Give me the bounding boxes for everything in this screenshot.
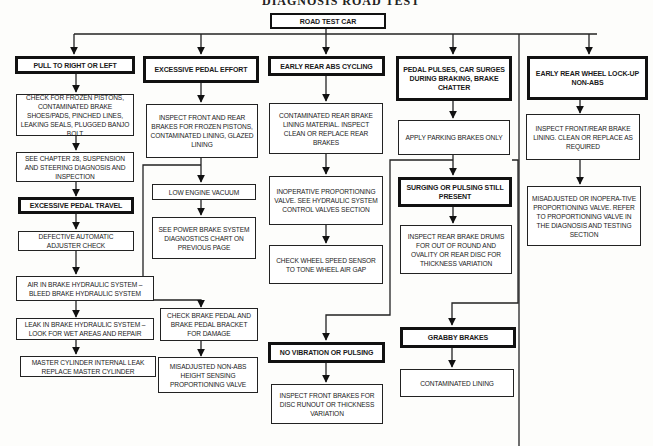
header-label: PULL TO RIGHT OR LEFT xyxy=(33,61,116,70)
header-excessive-pedal-travel: EXCESSIVE PEDAL TRAVEL xyxy=(18,197,134,214)
step-inoperative-proportioning-valve: INOPERATIVE PROPORTIONING VALVE. SEE HYD… xyxy=(269,176,383,225)
step-inspect-rear-drums: INSPECT REAR BRAKE DRUMS FOR OUT OF ROUN… xyxy=(400,225,512,274)
header-label: PEDAL PULSES, CAR SURGES DURING BRAKING,… xyxy=(402,65,506,92)
step-see-chapter-28: SEE CHAPTER 28, SUSPENSION AND STEERING … xyxy=(16,152,134,182)
header-pull-to-right-or-left: PULL TO RIGHT OR LEFT xyxy=(15,56,135,74)
step-misadjusted-proportioning-valve: MISADJUSTED OR INOPERA-TIVE PROPORTIONIN… xyxy=(527,186,641,246)
step-inspect-front-brakes-runout: INSPECT FRONT BRAKES FOR DISC RUNOUT OR … xyxy=(271,384,383,424)
step-air-in-hydraulic: AIR IN BRAKE HYDRAULIC SYSTEM – BLEED BR… xyxy=(16,276,154,301)
step-label: CHECK BRAKE PEDAL AND BRAKE PEDAL BRACKE… xyxy=(164,311,254,338)
header-label: NO VIBRATION OR PULSING xyxy=(280,348,374,357)
header-pedal-pulses: PEDAL PULSES, CAR SURGES DURING BRAKING,… xyxy=(396,56,512,101)
step-inspect-front-rear-lining: INSPECT FRONT/REAR BRAKE LINING. CLEAN O… xyxy=(526,114,640,160)
header-surging-still-present: SURGING OR PULSING STILL PRESENT xyxy=(398,177,512,207)
step-label: APPLY PARKING BRAKES ONLY xyxy=(405,133,502,142)
step-label: CHECK WHEEL SPEED SENSOR TO TONE WHEEL A… xyxy=(273,256,379,274)
step-misadjusted-non-abs: MISADJUSTED NON-ABS HEIGHT SENSING PROPO… xyxy=(158,357,258,393)
step-label: CONTAMINATED REAR BRAKE LINING MATERIAL.… xyxy=(273,111,379,147)
header-label: EARLY REAR ABS CYCLING xyxy=(280,62,372,71)
root-road-test-car: ROAD TEST CAR xyxy=(270,13,386,29)
header-label: SURGING OR PULSING STILL PRESENT xyxy=(404,183,506,201)
step-contaminated-rear-lining: CONTAMINATED REAR BRAKE LINING MATERIAL.… xyxy=(269,103,383,154)
step-label: MASTER CYLINDER INTERNAL LEAK REPLACE MA… xyxy=(24,358,152,376)
header-no-vibration-or-pulsing: NO VIBRATION OR PULSING xyxy=(268,342,385,363)
step-see-power-brake-chart: SEE POWER BRAKE SYSTEM DIAGNOSTICS CHART… xyxy=(152,217,256,259)
step-label: MISADJUSTED OR INOPERA-TIVE PROPORTIONIN… xyxy=(531,194,637,239)
header-early-rear-abs-cycling: EARLY REAR ABS CYCLING xyxy=(268,56,385,76)
step-label: INSPECT FRONT/REAR BRAKE LINING. CLEAN O… xyxy=(530,124,636,151)
step-label: CHECK FOR FROZEN PISTONS, CONTAMINATED B… xyxy=(20,93,130,138)
step-label: LOW ENGINE VACUUM xyxy=(169,188,239,197)
step-check-brake-pedal: CHECK BRAKE PEDAL AND BRAKE PEDAL BRACKE… xyxy=(160,308,258,341)
step-label: LEAK IN BRAKE HYDRAULIC SYSTEM – LOOK FO… xyxy=(20,320,150,338)
step-label: DEFECTIVE AUTOMATIC ADJUSTER CHECK xyxy=(22,232,130,250)
step-inspect-front-rear-brakes: INSPECT FRONT AND REAR BRAKES FOR FROZEN… xyxy=(146,104,258,158)
chart-title-partial: DIAGNOSIS ROAD TEST xyxy=(262,0,420,9)
step-label: SEE CHAPTER 28, SUSPENSION AND STEERING … xyxy=(20,154,130,181)
header-label: GRABBY BRAKES xyxy=(428,333,488,342)
step-leak-in-hydraulic: LEAK IN BRAKE HYDRAULIC SYSTEM – LOOK FO… xyxy=(16,318,154,340)
step-label: INSPECT FRONT BRAKES FOR DISC RUNOUT OR … xyxy=(275,391,379,418)
step-check-frozen-pistons: CHECK FOR FROZEN PISTONS, CONTAMINATED B… xyxy=(16,94,134,136)
step-low-engine-vacuum: LOW ENGINE VACUUM xyxy=(152,184,256,200)
step-label: INOPERATIVE PROPORTIONING VALVE. SEE HYD… xyxy=(273,187,379,214)
step-label: AIR IN BRAKE HYDRAULIC SYSTEM – BLEED BR… xyxy=(20,280,150,298)
step-label: SEE POWER BRAKE SYSTEM DIAGNOSTICS CHART… xyxy=(156,225,252,252)
step-contaminated-lining: CONTAMINATED LINING xyxy=(400,369,514,397)
header-early-rear-wheel-lockup: EARLY REAR WHEEL LOCK-UP NON-ABS xyxy=(527,56,648,100)
root-label: ROAD TEST CAR xyxy=(300,17,356,26)
header-label: EARLY REAR WHEEL LOCK-UP NON-ABS xyxy=(533,69,642,87)
header-label: EXCESSIVE PEDAL EFFORT xyxy=(155,65,248,74)
step-label: CONTAMINATED LINING xyxy=(420,379,494,388)
step-label: INSPECT FRONT AND REAR BRAKES FOR FROZEN… xyxy=(150,113,254,149)
header-grabby-brakes: GRABBY BRAKES xyxy=(400,327,516,348)
step-apply-parking-brakes: APPLY PARKING BRAKES ONLY xyxy=(398,120,510,155)
step-label: MISADJUSTED NON-ABS HEIGHT SENSING PROPO… xyxy=(162,362,254,389)
step-label: INSPECT REAR BRAKE DRUMS FOR OUT OF ROUN… xyxy=(404,232,508,268)
header-label: EXCESSIVE PEDAL TRAVEL xyxy=(30,201,122,210)
step-master-cylinder-leak: MASTER CYLINDER INTERNAL LEAK REPLACE MA… xyxy=(20,356,156,377)
step-defective-adjuster: DEFECTIVE AUTOMATIC ADJUSTER CHECK xyxy=(18,231,134,251)
step-check-wheel-speed-sensor: CHECK WHEEL SPEED SENSOR TO TONE WHEEL A… xyxy=(269,245,383,284)
header-excessive-pedal-effort: EXCESSIVE PEDAL EFFORT xyxy=(143,56,259,83)
